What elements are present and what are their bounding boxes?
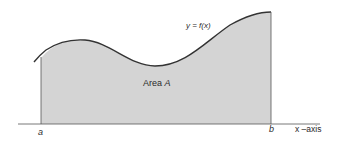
area-under-curve-diagram	[0, 0, 339, 142]
shaded-area-region	[41, 12, 271, 124]
upper-bound-label: b	[269, 125, 274, 134]
area-label-text: Area	[143, 78, 162, 88]
x-axis-label: x –axis	[295, 125, 321, 134]
curve-label: y = f(x)	[186, 22, 211, 30]
area-label: Area A	[143, 79, 171, 88]
lower-bound-label: a	[38, 128, 43, 137]
area-label-symbol: A	[165, 78, 171, 88]
